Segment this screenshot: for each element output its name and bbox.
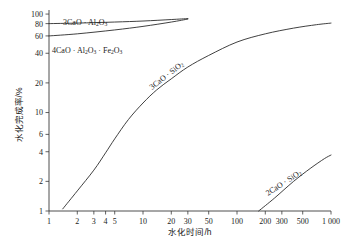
x-tick-label: 1 000 <box>322 217 340 226</box>
x-tick-label: 100 <box>231 217 243 226</box>
y-tick-label: 10 <box>35 108 43 117</box>
x-tick-label: 200 <box>259 217 271 226</box>
curve-label-3: 2CaO · SiO2 <box>264 168 303 198</box>
chart-container: 12461020406080100 1234510203050100200300… <box>0 0 343 247</box>
y-axis-ticks <box>46 14 50 211</box>
x-tick-label: 4 <box>104 217 108 226</box>
x-tick-label: 5 <box>113 217 117 226</box>
x-tick-label: 20 <box>167 217 175 226</box>
hydration-log-log-chart: 12461020406080100 1234510203050100200300… <box>0 0 343 247</box>
y-tick-label: 1 <box>39 207 43 216</box>
x-axis-tick-labels: 12345102030501002003005001 000 <box>47 217 340 226</box>
curve-3 <box>259 155 331 211</box>
curve-label-0: 3CaO · Al2O3 <box>63 18 107 27</box>
y-tick-label: 20 <box>35 79 43 88</box>
x-tick-label: 30 <box>184 217 192 226</box>
y-tick-label: 100 <box>31 10 43 19</box>
y-axis-title: 水化完成率/% <box>14 87 24 142</box>
x-tick-label: 2 <box>75 217 79 226</box>
y-tick-label: 4 <box>39 148 43 157</box>
y-tick-label: 80 <box>35 20 43 29</box>
y-tick-label: 60 <box>35 32 43 41</box>
x-axis-title: 水化时间/h <box>168 227 211 237</box>
x-tick-label: 300 <box>276 217 288 226</box>
curve-label-1: 4CaO · Al2O3 · Fe2O3 <box>52 46 123 55</box>
y-tick-label: 6 <box>39 130 43 139</box>
x-tick-label: 10 <box>139 217 147 226</box>
x-axis-ticks <box>49 211 331 215</box>
curve-labels: 3CaO · Al2O34CaO · Al2O3 · Fe2O33CaO · S… <box>52 18 303 198</box>
x-tick-label: 500 <box>297 217 309 226</box>
x-tick-label: 3 <box>92 217 96 226</box>
x-tick-label: 1 <box>47 217 51 226</box>
y-axis-tick-labels: 12461020406080100 <box>31 10 43 216</box>
curve-label-2: 3CaO · SiO2 <box>148 59 186 91</box>
y-tick-label: 40 <box>35 49 43 58</box>
y-tick-label: 2 <box>39 177 43 186</box>
x-tick-label: 50 <box>205 217 213 226</box>
